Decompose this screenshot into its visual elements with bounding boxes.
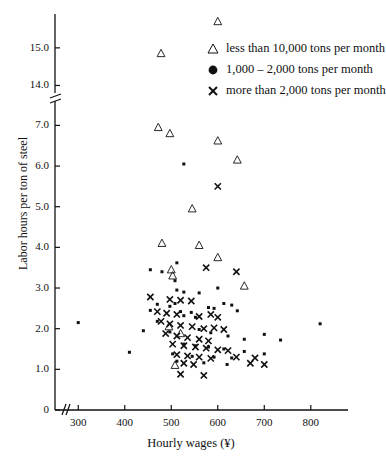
x-axis-title: Hourly wages (¥) (96, 436, 286, 451)
data-point-cross (233, 354, 239, 360)
data-point-cross (196, 336, 202, 342)
data-point-cross (164, 310, 170, 316)
data-point-triangle (195, 241, 203, 248)
y-tick-label: 0 (15, 403, 49, 415)
data-point-dot (236, 309, 239, 312)
data-point-dot (190, 311, 193, 314)
x-tick-label: 700 (244, 416, 284, 428)
data-point-dot (142, 329, 145, 332)
x-tick-label: 400 (105, 416, 145, 428)
data-point-triangle (157, 49, 165, 56)
data-point-cross (215, 314, 221, 320)
data-point-cross (189, 324, 195, 330)
data-point-cross (170, 341, 176, 347)
data-point-cross (211, 325, 217, 331)
data-point-cross (177, 322, 183, 328)
data-point-dot (209, 331, 212, 334)
data-point-triangle (158, 239, 166, 246)
data-point-cross (215, 183, 221, 189)
data-point-dot (182, 314, 185, 317)
y-tick-label: 14.0 (15, 78, 49, 90)
y-tick-marks (55, 48, 60, 410)
data-point-cross (154, 309, 160, 315)
series-dots (77, 163, 322, 366)
data-point-cross (174, 311, 180, 317)
filled-circle-icon (206, 61, 222, 79)
data-point-dot (243, 338, 246, 341)
data-point-dot (175, 261, 178, 264)
legend-label-1: 1,000 – 2,000 tons per month (226, 62, 373, 77)
data-point-dot (173, 302, 176, 305)
data-point-triangle (214, 137, 222, 144)
data-point-triangle (188, 205, 196, 212)
data-point-cross (181, 360, 187, 366)
data-point-dot (156, 320, 159, 323)
data-point-dot (227, 335, 230, 338)
data-point-dot (263, 352, 266, 355)
data-point-cross (174, 352, 180, 358)
data-point-cross (167, 296, 173, 302)
data-point-dot (263, 333, 266, 336)
legend-label-0: less than 10,000 tons per month (226, 41, 385, 56)
data-point-dot (191, 355, 194, 358)
triangle-icon (206, 40, 222, 58)
data-point-triangle (166, 129, 174, 136)
data-point-dot (243, 350, 246, 353)
data-point-dot (198, 328, 201, 331)
y-tick-label: 2.0 (15, 322, 49, 334)
data-point-cross (147, 294, 153, 300)
data-point-cross (261, 361, 267, 367)
data-point-triangle (233, 156, 241, 163)
data-point-cross (196, 313, 202, 319)
data-point-dot (160, 270, 163, 273)
data-point-dot (279, 339, 282, 342)
x-tick-label: 600 (198, 416, 238, 428)
data-point-dot (207, 306, 210, 309)
data-point-dot (230, 356, 233, 359)
data-point-cross (201, 372, 207, 378)
data-point-cross (221, 326, 227, 332)
data-point-cross (203, 265, 209, 271)
cross-icon (206, 82, 222, 100)
data-point-cross (163, 330, 169, 336)
data-point-dot (149, 309, 152, 312)
data-point-triangle (214, 17, 222, 24)
data-point-dot (198, 291, 201, 294)
data-point-cross (215, 347, 221, 353)
data-point-cross (196, 354, 202, 360)
data-point-dot (182, 163, 185, 166)
y-axis-title: Labor hours per ton of steel (16, 119, 31, 289)
axis-break-marks (50, 94, 70, 415)
data-point-cross (201, 326, 207, 332)
x-tick-label: 500 (151, 416, 191, 428)
data-point-triangle (167, 266, 175, 273)
data-point-dot (173, 279, 176, 282)
data-point-dot (128, 351, 131, 354)
y-tick-label: 1.0 (15, 362, 49, 374)
data-point-cross (208, 311, 214, 317)
data-point-dot (77, 321, 80, 324)
data-point-dot (213, 307, 216, 310)
data-point-cross (205, 338, 211, 344)
data-point-dot (222, 302, 225, 305)
data-point-cross (177, 297, 183, 303)
data-point-dot (182, 291, 185, 294)
series-crosses (147, 183, 267, 378)
data-point-cross (190, 361, 196, 367)
y-tick-label: 15.0 (15, 41, 49, 53)
x-tick-label: 300 (58, 416, 98, 428)
data-point-dot (149, 268, 152, 271)
data-point-cross (188, 298, 194, 304)
data-point-cross (184, 335, 190, 341)
data-point-cross (177, 371, 183, 377)
data-point-dot (202, 361, 205, 364)
legend-label-2: more than 2,000 tons per month (226, 83, 386, 98)
data-point-dot (156, 303, 159, 306)
data-point-dot (319, 322, 322, 325)
data-point-dot (168, 305, 171, 308)
data-point-dot (175, 289, 178, 292)
x-tick-marks (78, 405, 311, 410)
data-point-dot (216, 287, 219, 290)
data-point-dot (226, 363, 229, 366)
